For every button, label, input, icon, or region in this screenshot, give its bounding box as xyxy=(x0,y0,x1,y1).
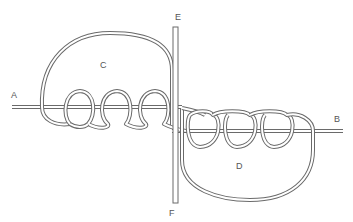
label-d: D xyxy=(236,161,243,171)
label-c: C xyxy=(100,60,107,70)
label-b: B xyxy=(334,114,340,124)
knot-diagram: A B C D E F xyxy=(0,0,353,222)
loop-c xyxy=(42,33,172,128)
label-f: F xyxy=(169,208,175,218)
coils-left xyxy=(65,91,186,131)
bar-e-f xyxy=(173,27,178,203)
label-a: A xyxy=(11,90,17,100)
label-e: E xyxy=(175,12,181,22)
